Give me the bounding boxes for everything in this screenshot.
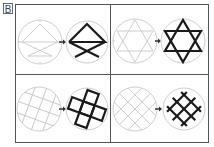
- panel-1: [18, 20, 108, 64]
- arrow-icon: [155, 107, 162, 112]
- panel-2: [113, 19, 205, 63]
- panel-3-result: [64, 86, 110, 132]
- panel-4: [93, 67, 207, 147]
- diagram-canvas: [0, 0, 214, 147]
- panel-1-guide: [18, 20, 62, 64]
- arrow-icon: [59, 107, 66, 112]
- panel-2-result: [161, 19, 205, 63]
- panel-3: [2, 72, 110, 146]
- panel-1-result: [66, 21, 108, 63]
- panel-4-guide: [93, 67, 178, 147]
- arrow-icon: [59, 40, 66, 45]
- panel-4-result: [161, 86, 206, 131]
- panel-2-guide: [113, 19, 157, 63]
- arrow-icon: [155, 39, 161, 44]
